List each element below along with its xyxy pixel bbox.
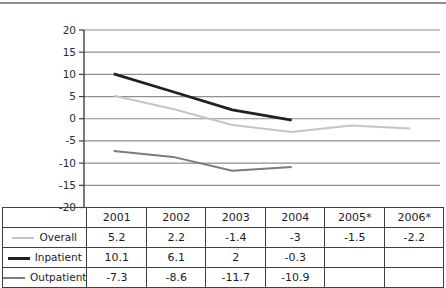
year-header-2003: 2003 [206, 208, 266, 228]
table-corner-cell [3, 208, 87, 228]
value-cell: -2.2 [384, 228, 444, 248]
series-label-cell-outpatient: Outpatient [3, 268, 87, 288]
value-cell: -0.3 [265, 248, 325, 268]
y-axis-tick-label: 10 [63, 68, 76, 80]
value-cell: 6.1 [146, 248, 206, 268]
value-cell: 10.1 [87, 248, 147, 268]
value-cell: -1.5 [325, 228, 385, 248]
value-cell: 2 [206, 248, 266, 268]
value-cell [325, 248, 385, 268]
series-label-cell-overall: Overall [3, 228, 87, 248]
y-axis-tick-label: 15 [63, 46, 76, 58]
year-header-2002: 2002 [146, 208, 206, 228]
value-cell: 2.2 [146, 228, 206, 248]
year-header-2005: 2005* [325, 208, 385, 228]
value-cell: 5.2 [87, 228, 147, 248]
table-row-outpatient: Outpatient -7.3 -8.6 -11.7 -10.9 [3, 268, 444, 288]
series-label-inpatient: Inpatient [35, 251, 82, 263]
chart-figure: 20151050-5-10-15-20 2001 2002 2003 2004 … [0, 0, 446, 288]
year-header-row: 2001 2002 2003 2004 2005* 2006* [3, 208, 444, 228]
y-axis-tick-label: -5 [66, 134, 76, 146]
value-cell [325, 268, 385, 288]
table-row-inpatient: Inpatient 10.1 6.1 2 -0.3 [3, 248, 444, 268]
value-cell: -3 [265, 228, 325, 248]
year-header-2001: 2001 [87, 208, 147, 228]
y-axis-tick-label: 0 [69, 112, 76, 124]
year-header-2006: 2006* [384, 208, 444, 228]
series-line-outpatient [114, 151, 292, 171]
value-cell: -7.3 [87, 268, 147, 288]
legend-line-swatch-overall [12, 237, 34, 239]
series-label-outpatient: Outpatient [30, 271, 86, 283]
value-cell [384, 248, 444, 268]
value-cell: -8.6 [146, 268, 206, 288]
value-cell [384, 268, 444, 288]
y-axis-tick-label: -15 [59, 179, 76, 191]
legend-line-swatch-outpatient [3, 277, 25, 279]
value-cell: -10.9 [265, 268, 325, 288]
table-row-overall: Overall 5.2 2.2 -1.4 -3 -1.5 -2.2 [3, 228, 444, 248]
year-header-2004: 2004 [265, 208, 325, 228]
series-label-overall: Overall [39, 231, 77, 243]
value-cell: -11.7 [206, 268, 266, 288]
chart-data-table: 2001 2002 2003 2004 2005* 2006* Overall … [2, 207, 444, 288]
y-axis-tick-label: 20 [63, 24, 76, 36]
series-label-cell-inpatient: Inpatient [3, 248, 87, 268]
legend-line-swatch-inpatient [8, 257, 30, 260]
y-axis-tick-label: 5 [69, 90, 76, 102]
value-cell: -1.4 [206, 228, 266, 248]
y-axis-tick-label: -10 [59, 157, 76, 169]
